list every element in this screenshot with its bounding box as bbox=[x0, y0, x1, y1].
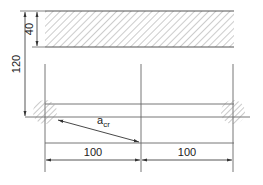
crack-distance-label: acr bbox=[97, 114, 110, 129]
dimension-label-40: 40 bbox=[23, 23, 35, 35]
dimension-label-left-100: 100 bbox=[84, 146, 102, 158]
dimension-spacing: 100 100 bbox=[46, 146, 232, 160]
vertical-lines bbox=[45, 64, 233, 172]
crack-spacing-diagram: 120 40 acr 100 100 bbox=[0, 0, 263, 185]
crack-zone-left bbox=[33, 100, 57, 124]
dimension-label-120: 120 bbox=[10, 55, 22, 73]
hatched-slab bbox=[45, 11, 234, 47]
crack-distance-arrow: acr bbox=[58, 114, 139, 142]
horizontal-lines bbox=[25, 104, 250, 143]
crack-zone-right bbox=[221, 100, 245, 124]
dimension-label-right-100: 100 bbox=[178, 146, 196, 158]
